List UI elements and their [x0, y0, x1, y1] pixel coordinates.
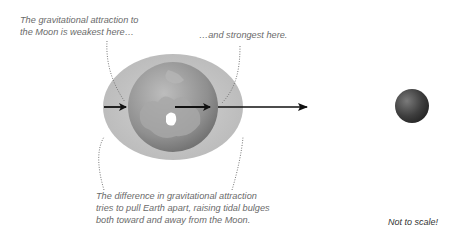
weakest-label: The gravitational attraction to the Moon…: [20, 14, 138, 38]
moon: [395, 89, 429, 123]
leader-bottom-left: [99, 137, 104, 190]
difference-label-line3: both toward and away from the Moon.: [96, 214, 270, 226]
weakest-label-line1: The gravitational attraction to: [20, 14, 138, 26]
weakest-label-line2: the Moon is weakest here…: [20, 26, 138, 38]
difference-label-line1: The difference in gravitational attracti…: [96, 190, 270, 202]
scale-note: Not to scale!: [388, 216, 438, 228]
leader-bottom-right: [232, 137, 243, 190]
difference-label-line2: tries to pull Earth apart, raising tidal…: [96, 202, 270, 214]
strongest-label: …and strongest here.: [199, 29, 287, 41]
difference-label: The difference in gravitational attracti…: [96, 190, 270, 226]
